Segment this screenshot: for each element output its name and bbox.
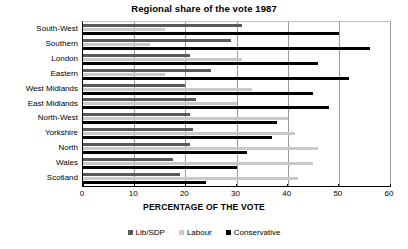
bar-conservative xyxy=(83,92,313,95)
legend-label: Labour xyxy=(187,228,212,237)
bar-lib-sdp xyxy=(83,158,173,161)
bar-group xyxy=(83,52,390,67)
bar-labour xyxy=(83,73,165,76)
bar-labour xyxy=(83,28,165,31)
bar-labour xyxy=(83,177,298,180)
legend-item-conservative: Conservative xyxy=(226,228,281,237)
x-axis-title: PERCENTAGE OF THE VOTE xyxy=(0,202,408,212)
bar-labour xyxy=(83,43,150,46)
bar-groups xyxy=(83,22,390,186)
category-label: Eastern xyxy=(2,69,82,78)
bar-labour xyxy=(83,147,318,150)
x-tick-label: 50 xyxy=(333,189,342,198)
category-axis: South-WestSouthernLondonEasternWest Midl… xyxy=(0,21,82,187)
x-tick-mark xyxy=(390,184,391,187)
x-tick-mark xyxy=(185,184,186,187)
x-axis-ticks: 0102030405060 xyxy=(82,189,391,201)
bar-group xyxy=(83,111,390,126)
bar-lib-sdp xyxy=(83,24,242,27)
bar-chart: Regional share of the vote 1987 South-We… xyxy=(0,0,408,249)
bar-group xyxy=(83,82,390,97)
legend-item-lib-sdp: Lib/SDP xyxy=(128,228,165,237)
bar-conservative xyxy=(83,151,247,154)
bar-lib-sdp xyxy=(83,173,180,176)
category-label: Yorkshire xyxy=(2,128,82,137)
bar-conservative xyxy=(83,47,370,50)
category-label: East Midlands xyxy=(2,99,82,108)
category-label: South-West xyxy=(2,24,82,33)
x-tick-label: 60 xyxy=(385,189,394,198)
bar-group xyxy=(83,37,390,52)
category-label: Southern xyxy=(2,39,82,48)
legend-swatch-icon xyxy=(226,230,231,235)
category-label: Scotland xyxy=(2,173,82,182)
bar-group xyxy=(83,141,390,156)
x-tick-label: 30 xyxy=(231,189,240,198)
x-tick-mark xyxy=(338,184,339,187)
bar-conservative xyxy=(83,32,339,35)
chart-legend: Lib/SDP Labour Conservative xyxy=(0,228,408,237)
bar-lib-sdp xyxy=(83,69,211,72)
category-label: North-West xyxy=(2,113,82,122)
bar-labour xyxy=(83,162,313,165)
legend-swatch-icon xyxy=(128,230,133,235)
x-tick-mark xyxy=(83,184,84,187)
category-label: London xyxy=(2,54,82,63)
bar-labour xyxy=(83,102,237,105)
bar-conservative xyxy=(83,136,272,139)
bar-group xyxy=(83,126,390,141)
legend-label: Lib/SDP xyxy=(136,228,165,237)
x-tick-label: 40 xyxy=(282,189,291,198)
bar-lib-sdp xyxy=(83,39,231,42)
x-tick-label: 10 xyxy=(129,189,138,198)
category-label: West Midlands xyxy=(2,84,82,93)
plot-area xyxy=(82,21,391,187)
gridline xyxy=(390,22,391,186)
bar-conservative xyxy=(83,62,318,65)
bar-labour xyxy=(83,132,295,135)
bar-labour xyxy=(83,117,288,120)
bar-conservative xyxy=(83,121,277,124)
bar-group xyxy=(83,67,390,82)
category-label: Wales xyxy=(2,158,82,167)
x-tick-label: 0 xyxy=(80,189,84,198)
legend-swatch-icon xyxy=(179,230,184,235)
bar-lib-sdp xyxy=(83,113,190,116)
bar-lib-sdp xyxy=(83,128,193,131)
x-tick-label: 20 xyxy=(180,189,189,198)
bar-lib-sdp xyxy=(83,84,185,87)
x-tick-mark xyxy=(287,184,288,187)
bar-labour xyxy=(83,88,252,91)
legend-label: Conservative xyxy=(234,228,281,237)
bar-lib-sdp xyxy=(83,143,190,146)
chart-title: Regional share of the vote 1987 xyxy=(0,3,408,14)
bar-lib-sdp xyxy=(83,54,190,57)
x-tick-mark xyxy=(236,184,237,187)
bar-conservative xyxy=(83,77,349,80)
bar-group xyxy=(83,156,390,171)
bar-lib-sdp xyxy=(83,98,196,101)
legend-item-labour: Labour xyxy=(179,228,212,237)
bar-group xyxy=(83,97,390,112)
category-label: North xyxy=(2,143,82,152)
bar-conservative xyxy=(83,181,206,184)
bar-conservative xyxy=(83,106,329,109)
x-tick-mark xyxy=(134,184,135,187)
bar-labour xyxy=(83,58,242,61)
bar-group xyxy=(83,22,390,37)
bar-conservative xyxy=(83,166,237,169)
